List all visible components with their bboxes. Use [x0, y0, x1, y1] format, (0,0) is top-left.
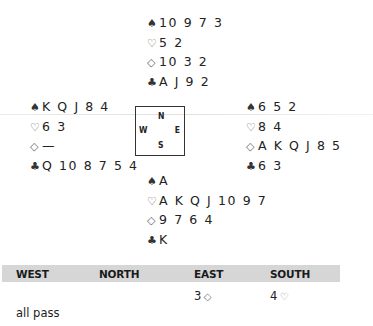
- heart-icon: ♡: [246, 119, 258, 138]
- south-diamonds: ◇9 7 6 4: [147, 211, 267, 231]
- compass-box: N W E S: [135, 106, 185, 156]
- all-pass-text: all pass: [16, 306, 59, 320]
- bidding-header-east: EAST: [194, 268, 223, 280]
- east-hearts: ♡8 4: [246, 118, 342, 138]
- heart-icon: ♡: [30, 119, 42, 138]
- club-icon: ♣: [147, 74, 159, 93]
- diamond-icon: ◇: [246, 138, 258, 157]
- west-hearts: ♡6 3: [30, 118, 139, 138]
- spade-icon: ♠: [147, 15, 159, 34]
- east-bid: 3◇: [194, 289, 212, 303]
- south-spades: ♠A: [147, 172, 267, 192]
- compass-south: S: [158, 140, 164, 150]
- heart-icon: ♡: [147, 193, 159, 212]
- diamond-icon: ◇: [30, 138, 42, 157]
- club-icon: ♣: [147, 232, 159, 251]
- north-clubs: ♣A J 9 2: [147, 73, 224, 93]
- east-hand: ♠6 5 2 ♡8 4 ◇A K Q J 8 5 ♣6 3: [246, 98, 342, 176]
- compass-west: W: [139, 125, 147, 135]
- bidding-header-west: WEST: [16, 268, 49, 280]
- west-hand: ♠K Q J 8 4 ♡6 3 ◇— ♣Q 10 8 7 5 4: [30, 98, 139, 176]
- east-spades: ♠6 5 2: [246, 98, 342, 118]
- compass-east: E: [175, 125, 180, 135]
- south-clubs: ♣K: [147, 231, 267, 251]
- diamond-icon: ◇: [204, 291, 212, 302]
- club-icon: ♣: [30, 158, 42, 177]
- compass-north: N: [158, 111, 164, 121]
- north-diamonds: ◇10 3 2: [147, 53, 224, 73]
- north-hearts: ♡5 2: [147, 34, 224, 54]
- south-hand: ♠A ♡A K Q J 10 9 7 ◇9 7 6 4 ♣K: [147, 172, 267, 250]
- north-hand: ♠10 9 7 3 ♡5 2 ◇10 3 2 ♣A J 9 2: [147, 14, 224, 92]
- diamond-icon: ◇: [147, 212, 159, 231]
- west-spades: ♠K Q J 8 4: [30, 98, 139, 118]
- diamond-icon: ◇: [147, 54, 159, 73]
- spade-icon: ♠: [147, 173, 159, 192]
- heart-icon: ♡: [280, 291, 289, 302]
- bidding-header-south: SOUTH: [270, 268, 310, 280]
- west-clubs: ♣Q 10 8 7 5 4: [30, 157, 139, 177]
- bidding-header-north: NORTH: [99, 268, 139, 280]
- east-diamonds: ◇A K Q J 8 5: [246, 137, 342, 157]
- south-bid: 4♡: [270, 289, 289, 303]
- south-hearts: ♡A K Q J 10 9 7: [147, 192, 267, 212]
- heart-icon: ♡: [147, 35, 159, 54]
- spade-icon: ♠: [30, 99, 42, 118]
- west-diamonds: ◇—: [30, 137, 139, 157]
- north-spades: ♠10 9 7 3: [147, 14, 224, 34]
- spade-icon: ♠: [246, 99, 258, 118]
